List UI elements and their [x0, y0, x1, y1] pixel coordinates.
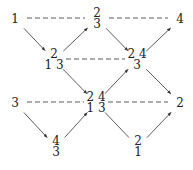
node-label-row: 3	[93, 19, 101, 30]
arrow-edge	[63, 69, 87, 93]
arrow-edge	[63, 28, 87, 51]
node-j: 21	[134, 136, 142, 158]
arrow-edge	[65, 113, 88, 138]
node-label-row: 1	[11, 14, 19, 25]
arrow-lines	[24, 28, 171, 138]
node-a: 1	[11, 14, 19, 25]
node-label-row: 1 3	[86, 103, 105, 114]
node-label-row: 3	[127, 60, 146, 71]
node-g: 2 41 3	[86, 92, 105, 114]
arrow-edge	[24, 28, 45, 50]
node-b: 23	[93, 8, 101, 30]
node-label-row: 2	[176, 98, 184, 109]
arrow-edge	[147, 112, 171, 137]
arrow-edge	[105, 112, 129, 137]
node-c: 4	[176, 14, 184, 25]
node-d: 21 3	[44, 49, 63, 71]
node-i: 43	[52, 136, 60, 158]
node-e: 2 43	[127, 49, 146, 71]
node-label-row: 4	[176, 14, 184, 25]
node-label-row: 1 3	[44, 60, 63, 71]
arrow-edge	[146, 69, 171, 94]
arrow-edge	[146, 28, 170, 51]
arrow-edge	[106, 28, 128, 50]
arrow-edge	[105, 69, 128, 93]
node-label-row: 3	[11, 98, 19, 109]
node-label-row: 3	[52, 147, 60, 158]
node-h: 2	[176, 98, 184, 109]
node-f: 3	[11, 98, 19, 109]
arrow-edge	[24, 113, 47, 138]
node-label-row: 1	[134, 147, 142, 158]
